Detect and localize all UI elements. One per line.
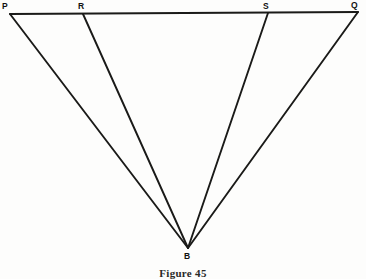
- figure-caption: Figure 45: [0, 268, 366, 279]
- vertex-label-b: B: [184, 252, 190, 261]
- segment-PQ: [10, 12, 358, 14]
- vertex-label-s: S: [263, 2, 269, 11]
- vertex-label-p: P: [2, 2, 8, 11]
- geometry-figure: P R S Q B Figure 45: [0, 0, 366, 279]
- vertex-label-r: R: [78, 2, 84, 11]
- figure-drawing-canvas: [0, 0, 366, 279]
- segment-SB: [188, 13, 268, 248]
- vertex-label-q: Q: [351, 1, 358, 10]
- segment-QB: [188, 12, 358, 248]
